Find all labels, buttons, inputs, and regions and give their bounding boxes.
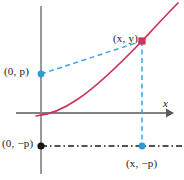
x-axis-arrowhead: [166, 109, 174, 118]
point-0-p-marker: [38, 71, 45, 78]
point-x-y-marker: [138, 37, 145, 44]
label-x-axis: x: [163, 98, 168, 109]
label-point-0-neg-p: (0, −p): [2, 138, 33, 149]
label-point-x-neg-p: (x, −p): [126, 158, 157, 169]
point-0-neg-p-marker: [37, 142, 44, 149]
exponential-curve: [36, 3, 178, 116]
parabola-focus-directrix-figure: (0, p) (0, −p) (x, y) (x, −p) x: [0, 0, 184, 180]
label-point-0-p: (0, p): [4, 66, 29, 77]
figure-canvas: [0, 0, 184, 180]
point-x-neg-p-marker: [139, 143, 146, 150]
label-point-x-y: (x, y): [113, 33, 138, 44]
